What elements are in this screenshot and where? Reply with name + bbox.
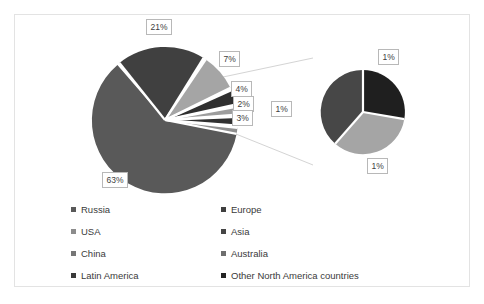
legend-swatch-icon <box>221 229 226 234</box>
data-label-europe: 3% <box>232 110 253 126</box>
legend-swatch-icon <box>71 229 76 234</box>
legend-label: China <box>81 248 106 259</box>
legend-swatch-icon <box>221 251 226 256</box>
legend-item-australia[interactable]: Australia <box>221 248 451 259</box>
secondary-slice-other-north-america[interactable] <box>363 70 405 119</box>
legend-swatch-icon <box>221 273 226 278</box>
data-label-other-north-america: 1% <box>378 49 399 65</box>
pie-of-pie-plot-area: 21% 7% 4% 2% 3% 63% 1% 1% 1% Russia Euro… <box>15 15 471 288</box>
legend-item-usa[interactable]: USA <box>71 226 221 237</box>
legend-label: Australia <box>231 248 268 259</box>
data-label-asia: 1% <box>271 101 292 117</box>
data-label-china: 4% <box>231 81 252 97</box>
legend: Russia Europe USA Asia China Australia <box>71 198 451 286</box>
data-label-russia: 21% <box>146 19 172 35</box>
legend-item-other-north-america-countries[interactable]: Other North America countries <box>221 270 451 281</box>
legend-swatch-icon <box>71 207 76 212</box>
legend-swatch-icon <box>221 207 226 212</box>
secondary-pie <box>321 70 405 154</box>
legend-label: Asia <box>231 226 249 237</box>
legend-item-europe[interactable]: Europe <box>221 204 451 215</box>
legend-label: Europe <box>231 204 262 215</box>
legend-swatch-icon <box>71 251 76 256</box>
chart-frame: 21% 7% 4% 2% 3% 63% 1% 1% 1% Russia Euro… <box>14 14 470 287</box>
legend-label: Latin America <box>81 270 139 281</box>
legend-item-asia[interactable]: Asia <box>221 226 451 237</box>
data-label-australia: 1% <box>367 158 388 174</box>
legend-label: USA <box>81 226 101 237</box>
legend-swatch-icon <box>71 273 76 278</box>
data-label-usa: 7% <box>219 51 240 67</box>
legend-label: Russia <box>81 204 110 215</box>
legend-item-china[interactable]: China <box>71 248 221 259</box>
legend-item-russia[interactable]: Russia <box>71 204 221 215</box>
legend-label: Other North America countries <box>231 270 359 281</box>
legend-item-latin-america[interactable]: Latin America <box>71 270 221 281</box>
data-label-usa-total: 63% <box>102 172 128 188</box>
